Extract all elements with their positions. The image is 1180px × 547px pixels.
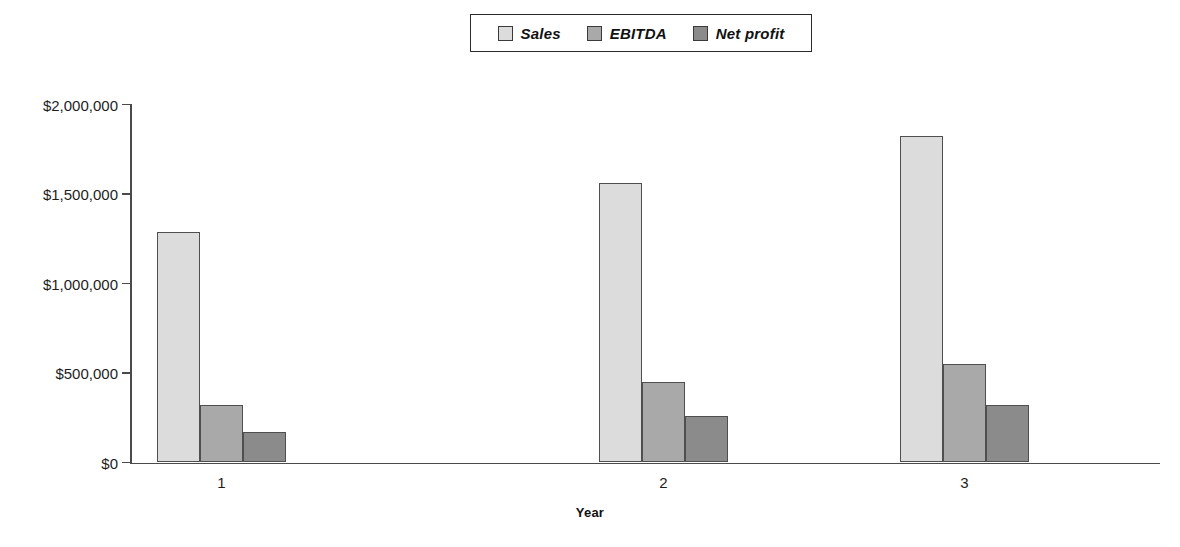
bar-ebitda-year-2 <box>642 382 685 463</box>
y-tick-label: $2,000,000 <box>0 96 118 113</box>
y-axis-line <box>130 104 132 464</box>
y-tick-label-wrap: $2,000,000 <box>0 105 118 122</box>
bar-net-profit-year-1 <box>243 432 286 463</box>
y-tick-label-wrap: $1,000,000 <box>0 284 118 301</box>
y-tick-label: $1,500,000 <box>0 186 118 203</box>
bar-net-profit-year-2 <box>685 416 728 462</box>
y-tick-mark <box>122 193 130 194</box>
bar-sales-year-2 <box>599 183 642 462</box>
y-tick-label: $1,000,000 <box>0 275 118 292</box>
x-axis-line <box>130 463 1160 465</box>
y-tick-label-wrap: $500,000 <box>0 373 118 390</box>
y-tick-label-wrap: $1,500,000 <box>0 194 118 211</box>
y-tick-mark <box>122 104 130 105</box>
y-tick-label-wrap: $0 <box>0 463 118 480</box>
x-axis-title: Year <box>0 505 1180 520</box>
bar-net-profit-year-3 <box>986 405 1029 462</box>
y-tick-label: $0 <box>0 454 118 471</box>
y-tick-mark <box>122 372 130 373</box>
bar-chart-figure: Sales EBITDA Net profit $0$500,000$1,000… <box>0 0 1180 547</box>
x-tick-label-year-3: 3 <box>960 474 968 491</box>
y-tick-mark <box>122 283 130 284</box>
plot-area: $0$500,000$1,000,000$1,500,000$2,000,000… <box>0 0 1180 547</box>
x-tick-label-year-2: 2 <box>659 474 667 491</box>
bar-ebitda-year-3 <box>943 364 986 462</box>
bar-ebitda-year-1 <box>200 405 243 462</box>
y-tick-label: $500,000 <box>0 365 118 382</box>
y-tick-mark <box>122 462 130 463</box>
x-tick-label-year-1: 1 <box>217 474 225 491</box>
bar-sales-year-1 <box>157 232 200 463</box>
bar-sales-year-3 <box>900 136 943 463</box>
